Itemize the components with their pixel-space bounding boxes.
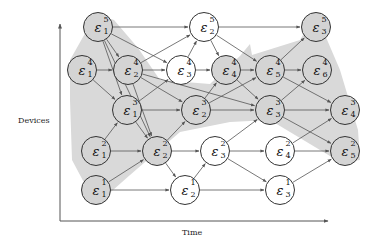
node-subscript: 1 (102, 151, 107, 160)
node-symbol: ε45 (267, 63, 274, 78)
edge-e2_5-to-e4_4 (211, 40, 219, 55)
node-subscript: 4 (286, 151, 291, 160)
node-symbol: ε33 (267, 103, 274, 118)
event-node-e4_3: ε34 (330, 95, 360, 125)
node-superscript: 4 (187, 58, 192, 67)
event-node-e3_5: ε53 (301, 12, 331, 42)
node-subscript: 2 (202, 110, 207, 119)
node-superscript: 5 (104, 15, 109, 24)
node-superscript: 2 (286, 139, 291, 148)
node-subscript: 2 (134, 70, 139, 79)
node-subscript: 2 (210, 27, 215, 36)
node-subscript: 2 (191, 190, 196, 199)
event-node-e3_3: ε33 (255, 95, 285, 125)
edge-e3_2-to-e3_3 (227, 120, 257, 142)
node-superscript: 3 (202, 98, 207, 107)
edge-e3_4-to-e2_5 (188, 41, 196, 57)
node-superscript: 3 (351, 98, 356, 107)
node-superscript: 5 (210, 15, 215, 24)
node-symbol: ε31 (124, 103, 131, 118)
node-symbol: ε53 (313, 20, 320, 35)
node-superscript: 4 (323, 58, 328, 67)
node-subscript: 6 (323, 70, 328, 79)
node-superscript: 1 (286, 178, 291, 187)
node-subscript: 5 (351, 151, 356, 160)
node-symbol: ε44 (223, 63, 230, 78)
event-node-e6_4: ε46 (302, 55, 332, 85)
event-node-e3_4: ε43 (166, 55, 196, 85)
node-subscript: 3 (322, 27, 327, 36)
edge-e3_2-to-e3_1 (228, 159, 266, 182)
node-symbol: ε51 (95, 20, 102, 35)
node-superscript: 4 (88, 58, 93, 67)
node-subscript: 5 (276, 70, 281, 79)
node-symbol: ε12 (182, 183, 189, 198)
node-symbol: ε21 (93, 144, 100, 159)
node-subscript: 4 (232, 70, 237, 79)
event-node-e2_1: ε12 (170, 175, 200, 205)
node-superscript: 3 (133, 98, 138, 107)
node-symbol: ε23 (212, 144, 219, 159)
node-subscript: 3 (187, 70, 192, 79)
node-symbol: ε42 (125, 63, 132, 78)
node-symbol: ε25 (342, 144, 349, 159)
event-node-e3_1: ε13 (265, 175, 295, 205)
node-superscript: 2 (102, 139, 107, 148)
node-symbol: ε11 (93, 183, 100, 198)
event-node-e2_4: ε42 (113, 55, 143, 85)
event-node-e1_2: ε21 (81, 136, 111, 166)
node-superscript: 4 (276, 58, 281, 67)
node-symbol: ε24 (277, 144, 284, 159)
node-superscript: 3 (276, 98, 281, 107)
node-symbol: ε34 (342, 103, 349, 118)
node-subscript: 3 (276, 110, 281, 119)
event-node-e5_4: ε45 (255, 55, 285, 85)
node-symbol: ε13 (277, 183, 284, 198)
event-node-e4_2: ε24 (265, 136, 295, 166)
node-superscript: 4 (232, 58, 237, 67)
x-axis-label: Time (182, 228, 202, 237)
y-axis-label: Devices (18, 116, 50, 125)
event-node-e4_4: ε44 (211, 55, 241, 85)
event-node-e2_5: ε52 (189, 12, 219, 42)
node-symbol: ε52 (201, 20, 208, 35)
event-diagram: ε51ε52ε53ε41ε42ε43ε44ε45ε46ε31ε32ε33ε34ε… (0, 0, 369, 244)
event-node-e3_2: ε23 (200, 136, 230, 166)
edge-e2_2-to-e2_1 (166, 163, 176, 177)
node-symbol: ε32 (193, 103, 200, 118)
event-node-e1_3: ε31 (112, 95, 142, 125)
node-symbol: ε43 (178, 63, 185, 78)
edge-e2_1-to-e3_2 (194, 164, 205, 178)
node-subscript: 1 (102, 190, 107, 199)
edge-e3_1-to-e5_2 (293, 159, 331, 182)
node-subscript: 1 (133, 110, 138, 119)
node-subscript: 1 (104, 27, 109, 36)
node-symbol: ε22 (154, 144, 161, 159)
node-symbol: ε41 (79, 63, 86, 78)
node-superscript: 1 (102, 178, 107, 187)
event-node-e1_1: ε11 (81, 175, 111, 205)
event-node-e1_4: ε41 (67, 55, 97, 85)
event-node-e5_2: ε25 (330, 136, 360, 166)
event-node-e2_2: ε22 (142, 136, 172, 166)
event-node-e1_5: ε51 (83, 12, 113, 42)
node-symbol: ε46 (314, 63, 321, 78)
node-superscript: 2 (221, 139, 226, 148)
node-superscript: 4 (134, 58, 139, 67)
node-superscript: 1 (191, 178, 196, 187)
node-superscript: 5 (322, 15, 327, 24)
node-subscript: 2 (163, 151, 168, 160)
node-subscript: 3 (221, 151, 226, 160)
node-subscript: 1 (88, 70, 93, 79)
node-subscript: 3 (286, 190, 291, 199)
node-subscript: 4 (351, 110, 356, 119)
event-node-e2_3: ε32 (181, 95, 211, 125)
node-superscript: 2 (163, 139, 168, 148)
node-superscript: 2 (351, 139, 356, 148)
